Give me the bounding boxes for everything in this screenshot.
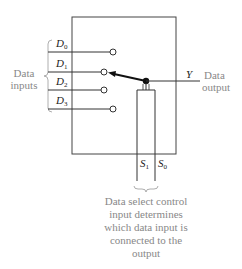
label-d1: D1: [55, 57, 68, 71]
input-d0: [48, 49, 116, 55]
input-contact-icon: [101, 87, 107, 93]
select-caption-line2: input determines: [109, 208, 183, 220]
multiplexer-diagram: D0 D1 D2 D3 Data inputs Y Data output S1…: [0, 0, 242, 269]
inputs-label-line1: Data: [14, 67, 35, 79]
select-brace: [134, 186, 158, 192]
input-contact-icon: [110, 106, 116, 112]
select-caption-line3: which data input is: [104, 221, 187, 233]
label-d2: D2: [55, 75, 68, 89]
label-s0: S0: [158, 157, 168, 171]
inputs-label-line2: inputs: [11, 79, 38, 91]
switch-arm-arrow-icon: [108, 71, 146, 81]
select-caption-line1: Data select control: [105, 195, 187, 207]
mux-box: [72, 17, 176, 154]
output-label-line2: output: [202, 81, 230, 93]
output-label-line1: Data: [204, 69, 225, 81]
inputs-brace: [44, 40, 52, 112]
input-contact-icon: [110, 49, 116, 55]
label-s1: S1: [140, 157, 150, 171]
select-caption-line4: connected to the: [110, 234, 182, 246]
input-contact-icon: [101, 69, 107, 75]
input-d3: [48, 106, 116, 112]
output-y-label: Y: [186, 68, 194, 80]
label-d0: D0: [55, 37, 68, 51]
label-d3: D3: [55, 94, 68, 108]
input-d2: [48, 87, 107, 93]
select-caption-line5: output: [132, 247, 160, 259]
